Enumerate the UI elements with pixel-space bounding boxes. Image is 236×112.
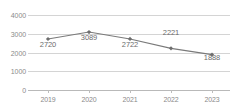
data-label-2023: 1888 (195, 54, 229, 62)
line-chart: 4000 3000 2000 1000 0 2019 2020 2021 202… (0, 0, 236, 112)
data-label-2022: 2221 (154, 29, 188, 37)
data-label-2020: 3089 (72, 34, 106, 42)
data-label-2019: 2720 (31, 41, 65, 49)
data-label-2021: 2722 (113, 41, 147, 49)
data-point-2022 (169, 46, 173, 50)
